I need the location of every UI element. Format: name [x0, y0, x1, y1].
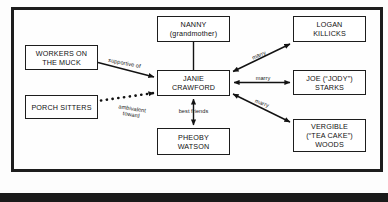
node-nanny[interactable]: NANNY (grandmother) [157, 16, 230, 42]
node-logan-killicks[interactable]: LOGAN KILLICKS [293, 16, 366, 42]
bottom-bar [0, 193, 388, 202]
node-joe-jody-starks[interactable]: JOE (“JODY”) STARKS [293, 70, 366, 95]
node-vergible-tea-cake-woods[interactable]: VERGIBLE (“TEA CAKE”) WOODS [293, 119, 366, 152]
node-pheoby-watson[interactable]: PHEOBY WATSON [157, 128, 230, 155]
edge-label-best-friends: best friends [166, 108, 221, 114]
node-janie-crawford[interactable]: JANIE CRAWFORD [157, 70, 230, 96]
node-workers-on-the-muck[interactable]: WORKERS ON THE MUCK [25, 45, 98, 70]
node-porch-sitters[interactable]: PORCH SITTERS [25, 95, 98, 119]
diagram-page: NANNY (grandmother) LOGAN KILLICKS WORKE… [0, 0, 388, 202]
edge-label-marry-joe: marry [249, 75, 277, 81]
